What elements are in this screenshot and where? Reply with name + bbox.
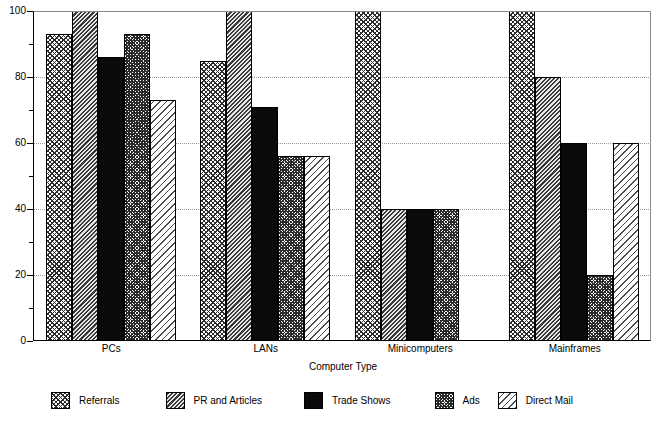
bar[interactable] <box>200 61 226 342</box>
bar-slot <box>46 11 72 341</box>
y-axis-label: 100 <box>9 6 26 16</box>
legend-label: Ads <box>463 395 480 407</box>
bar[interactable] <box>433 209 459 341</box>
bar-slot <box>304 11 330 341</box>
legend-item: Referrals <box>51 392 120 409</box>
bar-slot <box>72 11 98 341</box>
chart-legend: Referrals PR and Articles Trade Shows Ad… <box>33 392 633 409</box>
bar[interactable] <box>252 107 278 341</box>
bar[interactable] <box>98 57 124 341</box>
legend-swatch-trade-shows-icon <box>304 392 323 409</box>
bar-slot <box>200 11 226 341</box>
bar[interactable] <box>561 143 587 341</box>
bar-group <box>34 11 188 341</box>
legend-label: Direct Mail <box>526 395 573 407</box>
legend-swatch-direct-mail-icon <box>498 392 517 409</box>
legend-label: Referrals <box>79 395 120 407</box>
x-axis-labels: PCs LANs Minicomputers Mainframes <box>34 343 652 355</box>
plot-area <box>33 11 651 341</box>
legend-item: PR and Articles <box>166 392 262 409</box>
bar[interactable] <box>46 34 72 341</box>
bar-slot <box>433 11 459 341</box>
legend-item: Ads <box>435 392 480 409</box>
bar-slot <box>407 11 433 341</box>
bar-slot <box>98 11 124 341</box>
legend-item: Trade Shows <box>304 392 391 409</box>
bar[interactable] <box>381 209 407 341</box>
bar[interactable] <box>226 11 252 341</box>
bar-slot <box>613 11 639 341</box>
x-axis-category: Mainframes <box>498 343 653 355</box>
bar[interactable] <box>407 209 433 341</box>
bar-slot <box>252 11 278 341</box>
x-axis-category: Minicomputers <box>343 343 498 355</box>
bar-slot <box>124 11 150 341</box>
bar[interactable] <box>150 100 176 341</box>
bar-slot <box>381 11 407 341</box>
bar-slot <box>355 11 381 341</box>
bar[interactable] <box>278 156 304 341</box>
legend-swatch-ads-icon <box>435 392 454 409</box>
y-axis-label: 80 <box>15 72 26 82</box>
bar-slot <box>150 11 176 341</box>
y-axis-label: 60 <box>15 138 26 148</box>
bar-slot <box>226 11 252 341</box>
legend-item: Direct Mail <box>498 392 573 409</box>
y-axis: 100 80 60 40 20 0 <box>0 0 33 341</box>
x-axis-title: Computer Type <box>34 361 652 373</box>
bar[interactable] <box>509 11 535 341</box>
bar-chart: 100 80 60 40 20 0 PCs LANs Minicomputers… <box>0 0 657 425</box>
y-axis-label: 0 <box>20 336 26 346</box>
bar[interactable] <box>72 11 98 341</box>
bar[interactable] <box>613 143 639 341</box>
bar-slot <box>509 11 535 341</box>
bar[interactable] <box>587 275 613 341</box>
legend-swatch-referrals-icon <box>51 392 70 409</box>
legend-label: PR and Articles <box>194 395 262 407</box>
bar[interactable] <box>124 34 150 341</box>
bar[interactable] <box>535 77 561 341</box>
bar-slot <box>278 11 304 341</box>
bar-group <box>497 11 651 341</box>
bar-group <box>188 11 342 341</box>
x-axis-category: LANs <box>189 343 344 355</box>
bar-slot <box>459 11 485 341</box>
bar-group <box>343 11 497 341</box>
legend-swatch-pr-and-articles-icon <box>166 392 185 409</box>
bar-slot <box>587 11 613 341</box>
bar[interactable] <box>355 11 381 341</box>
bar-slot <box>535 11 561 341</box>
legend-label: Trade Shows <box>332 395 391 407</box>
bar[interactable] <box>304 156 330 341</box>
y-axis-label: 20 <box>15 270 26 280</box>
x-axis-category: PCs <box>34 343 189 355</box>
y-axis-label: 40 <box>15 204 26 214</box>
bar-slot <box>561 11 587 341</box>
y-axis-tick-major <box>27 341 33 342</box>
bar-groups <box>34 11 651 341</box>
